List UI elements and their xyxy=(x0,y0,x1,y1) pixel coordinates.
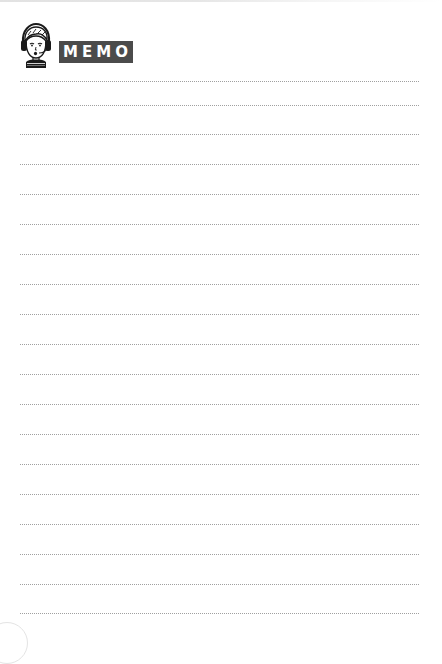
writing-line xyxy=(20,254,420,255)
page-top-edge xyxy=(0,0,442,2)
writing-line xyxy=(20,464,420,465)
writing-line xyxy=(20,524,420,525)
writing-line xyxy=(20,404,420,405)
writing-line xyxy=(20,194,420,195)
writing-line xyxy=(20,314,420,315)
writing-line xyxy=(20,81,420,82)
writing-line xyxy=(20,554,420,555)
writing-line xyxy=(20,584,420,585)
writing-line xyxy=(20,434,420,435)
writing-line xyxy=(20,134,420,135)
boy-with-headphones-icon xyxy=(18,22,54,68)
writing-line xyxy=(20,164,420,165)
writing-line xyxy=(20,284,420,285)
writing-line xyxy=(20,105,420,106)
writing-line xyxy=(20,224,420,225)
corner-decoration xyxy=(0,622,28,664)
writing-line xyxy=(20,374,420,375)
writing-line xyxy=(20,494,420,495)
writing-line xyxy=(20,344,420,345)
memo-title-badge: MEMO xyxy=(59,41,133,63)
writing-line xyxy=(20,613,420,614)
memo-header: MEMO xyxy=(18,22,133,68)
